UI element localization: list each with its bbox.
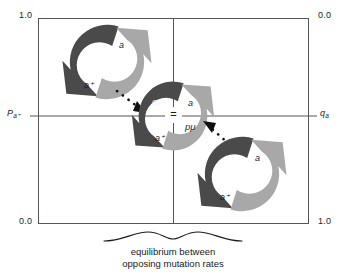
corner-label-top-right: 0.0 (318, 10, 331, 20)
arm-label-aplus-center: a⁺ (155, 133, 165, 143)
rate-label-q-nu: qν (152, 96, 162, 107)
mutation-equilibrium-figure: .dark-arm { fill: #4a4a4a; } .light-arm … (0, 0, 346, 276)
caption-line-1: equilibrium between (0, 246, 346, 258)
dotted-arrow-right (203, 121, 229, 144)
right-axis-subscript: a (325, 112, 329, 119)
left-axis-subscript: a⁺ (13, 112, 20, 119)
equals-sign: = (165, 106, 182, 123)
arm-label-a-bottom-right: a (255, 153, 260, 163)
caption-brace (104, 232, 242, 241)
arm-label-a-center: a (188, 98, 193, 108)
caption-line-2: opposing mutation rates (0, 258, 346, 270)
corner-label-bottom-left: 0.0 (19, 216, 32, 226)
corner-label-top-left: 1.0 (19, 10, 32, 20)
arm-label-aplus-top-left: a⁺ (84, 80, 94, 90)
rate-label-p-mu: pμ (185, 121, 196, 132)
arm-label-aplus-bottom-right: a⁺ (220, 192, 230, 202)
y-axis-label-left: Pa⁺ (7, 108, 20, 120)
figure-caption: equilibrium between opposing mutation ra… (0, 246, 346, 269)
figure-canvas: .dark-arm { fill: #4a4a4a; } .light-arm … (0, 0, 346, 276)
pinwheel-bottom-right (188, 120, 296, 228)
y-axis-label-right: qa (320, 108, 329, 119)
corner-label-bottom-right: 1.0 (318, 216, 331, 226)
arm-label-a-top-left: a (119, 40, 124, 50)
